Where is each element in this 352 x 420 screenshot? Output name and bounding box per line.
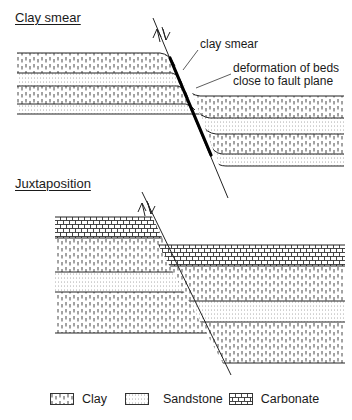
leader-deformation — [196, 74, 231, 88]
shear-arrows-clay-smear — [153, 27, 170, 42]
clay-pattern-icon — [50, 393, 74, 405]
carbonate-pattern-icon — [229, 393, 253, 405]
leader-clay-smear — [183, 50, 198, 70]
legend-label-sandstone: Sandstone — [163, 392, 223, 406]
legend-item-clay: Clay — [50, 392, 107, 406]
sandstone-pattern-icon — [125, 393, 149, 405]
legend: Clay Sandstone Carbonate — [50, 392, 331, 406]
legend-item-carbonate: Carbonate — [229, 392, 319, 406]
legend-item-sandstone: Sandstone — [125, 392, 223, 406]
legend-label-carbonate: Carbonate — [261, 392, 319, 406]
legend-label-clay: Clay — [82, 392, 107, 406]
fault-diagram — [0, 0, 352, 420]
